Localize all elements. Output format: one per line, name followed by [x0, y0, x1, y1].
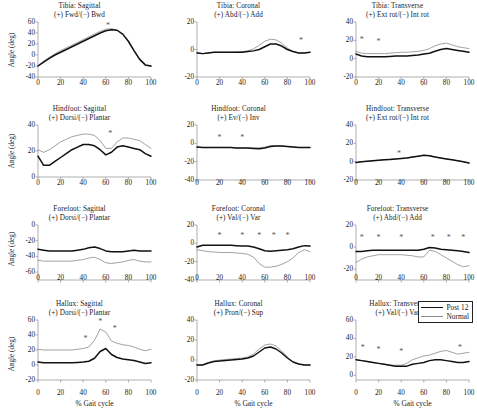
x-tick-label: 0	[195, 179, 199, 187]
y-tick-label: 60	[28, 18, 35, 26]
x-tick-label: 60	[420, 179, 427, 187]
axis-spines	[38, 125, 151, 177]
y-tick-label: 0	[31, 173, 35, 181]
y-tick-label: -20	[25, 237, 35, 245]
y-tick-label: -20	[343, 176, 353, 184]
y-tick-label: 40	[28, 331, 35, 339]
y-axis-label: Angle (deg)	[8, 134, 16, 169]
axis-spines	[38, 225, 151, 280]
significance-asterisk: *	[218, 134, 222, 142]
significance-asterisk: *	[285, 232, 289, 240]
x-axis-label: % Gait cycle	[38, 399, 151, 408]
x-tick-label: 0	[354, 274, 358, 282]
legend-swatch-icon	[421, 307, 443, 308]
panel-title-main: Forefoot: Sagittal	[53, 205, 105, 213]
axis-spines	[356, 225, 469, 280]
significance-asterisk: *	[458, 344, 462, 352]
y-tick-label: 20	[346, 139, 353, 147]
panel-title-sub: (+) Ev/(−) Inv	[159, 114, 318, 123]
plot-svg-hindfoot-transverse	[356, 125, 469, 180]
y-tick-label: 60	[346, 316, 353, 324]
series-line-post-12	[356, 248, 469, 253]
plot-area-hindfoot-sagittal: 40200020406080100*Angle (deg)	[38, 125, 151, 177]
panel-title-sub: (+) Fwd/(−) Bwd	[0, 11, 159, 20]
panel-title-sub: (+) Ext rot/(−) Int rot	[318, 114, 477, 123]
y-tick-label: -60	[25, 268, 35, 276]
plot-svg-hindfoot-coronal	[197, 125, 310, 180]
x-tick-label: 80	[284, 179, 291, 187]
plot-area-forefoot-sagittal: 0-20-40-60020406080100Angle (deg)	[38, 225, 151, 272]
plot-svg-hallux-sagittal	[38, 320, 151, 380]
panel-title-hindfoot-sagittal: Hindfoot: Sagittal(+) Dorsi/(−) Plantar	[0, 105, 159, 124]
significance-asterisk: *	[272, 232, 276, 240]
x-tick-label: 80	[125, 179, 132, 187]
axis-spines	[197, 125, 310, 180]
x-tick-label: 80	[284, 389, 291, 397]
x-tick-label: 40	[239, 79, 246, 87]
y-tick-label: -40	[184, 176, 194, 184]
significance-asterisk: *	[377, 346, 381, 354]
legend-entry-post-12: Post 12	[421, 303, 469, 312]
panel-title-sub: (+) Ext rot/(−) Int rot	[318, 11, 477, 20]
series-line-normal	[356, 250, 469, 266]
x-tick-label: 60	[261, 389, 268, 397]
plot-svg-hallux-transverse	[356, 320, 469, 380]
panel-title-hallux-sagittal: Hallux: Sagittal(+) Dorsi/(−) Plantar	[0, 300, 159, 319]
chart-panel-hindfoot-transverse: Hindfoot: Transverse(+) Ext rot/(−) Int …	[318, 103, 477, 203]
plot-svg-tibia-transverse	[356, 22, 469, 77]
series-line-post-12	[197, 245, 310, 251]
y-tick-label: 0	[190, 46, 194, 54]
y-tick-label: -20	[184, 258, 194, 266]
y-tick-label: 0	[349, 55, 353, 63]
panel-title-main: Tibia: Coronal	[217, 2, 260, 10]
significance-asterisk: *	[447, 234, 451, 242]
x-tick-label: 20	[57, 274, 64, 282]
plot-area-forefoot-transverse: 200-20020406080100******	[356, 225, 469, 272]
y-tick-label: 40	[28, 29, 35, 37]
y-axis-label: Angle (deg)	[8, 231, 16, 266]
y-tick-label: 20	[187, 221, 194, 229]
x-tick-label: 100	[464, 389, 475, 397]
y-tick-label: 20	[187, 336, 194, 344]
series-line-post-12	[38, 247, 151, 252]
significance-asterisk: *	[431, 234, 435, 242]
x-tick-label: 40	[80, 79, 87, 87]
x-tick-label: 60	[261, 79, 268, 87]
significance-asterisk: *	[360, 234, 364, 242]
x-tick-label: 20	[57, 389, 64, 397]
x-tick-label: 100	[464, 179, 475, 187]
x-tick-label: 40	[398, 179, 405, 187]
y-tick-label: -20	[184, 73, 194, 81]
x-axis-label: % Gait cycle	[356, 399, 469, 408]
panel-title-sub: (+) Dorsi/(−) Plantar	[0, 309, 159, 318]
series-line-post-12	[38, 145, 151, 166]
y-tick-label: 0	[190, 239, 194, 247]
x-tick-label: 40	[80, 389, 87, 397]
panel-title-main: Hallux: Transverse	[369, 300, 425, 308]
x-tick-label: 80	[443, 179, 450, 187]
x-tick-label: 20	[216, 274, 223, 282]
x-tick-label: 0	[354, 79, 358, 87]
axis-spines	[197, 22, 310, 77]
plot-area-tibia-coronal: 200-20020406080100*	[197, 22, 310, 77]
significance-asterisk: *	[397, 150, 401, 158]
series-line-post-12	[356, 155, 469, 163]
series-line-normal	[197, 250, 310, 267]
significance-asterisk: *	[257, 232, 261, 240]
series-line-normal	[38, 29, 151, 66]
x-tick-label: 60	[102, 389, 109, 397]
x-tick-label: 60	[420, 389, 427, 397]
x-tick-label: 0	[195, 389, 199, 397]
y-tick-label: 0	[190, 139, 194, 147]
panel-title-main: Hallux: Sagittal	[56, 300, 103, 308]
legend-label: Normal	[446, 312, 469, 321]
y-tick-label: 20	[28, 40, 35, 48]
chart-legend: Post 12Normal	[418, 301, 473, 323]
significance-asterisk: *	[360, 36, 364, 44]
panel-title-sub: (+) Dorsi/(−) Plantar	[0, 114, 159, 123]
series-line-normal	[38, 134, 151, 152]
panel-title-sub: (+) Pron/(−) Sup	[159, 309, 318, 318]
panel-title-hindfoot-coronal: Hindfoot: Coronal(+) Ev/(−) Inv	[159, 105, 318, 124]
x-tick-label: 100	[146, 389, 157, 397]
x-tick-label: 0	[195, 274, 199, 282]
